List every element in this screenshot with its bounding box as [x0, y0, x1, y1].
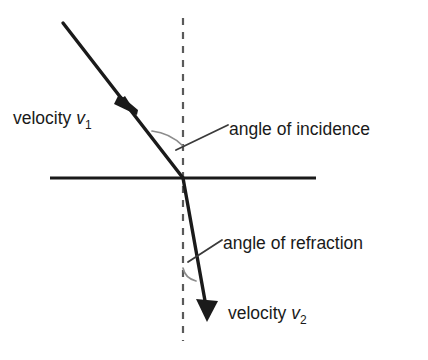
angle-of-refraction-label: angle of refraction — [223, 233, 363, 253]
velocity-v1-text: velocity — [13, 108, 76, 128]
refraction-diagram-canvas: velocity v1 angle of incidence angle of … — [0, 0, 428, 360]
angle-of-incidence-label: angle of incidence — [229, 119, 370, 139]
velocity-v1-subscript: 1 — [85, 118, 92, 132]
refraction-diagram: velocity v1 angle of incidence angle of … — [0, 0, 428, 360]
velocity-v2-subscript: 2 — [300, 313, 307, 327]
velocity-v2-text: velocity — [228, 303, 291, 323]
